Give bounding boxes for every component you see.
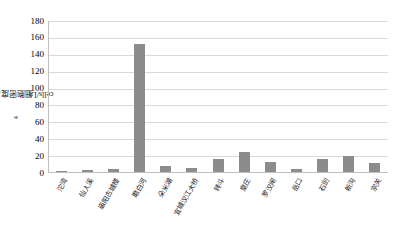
x-axis-tick-slot: 宗关	[362, 174, 388, 236]
y-axis-tick-label: 80	[18, 101, 44, 110]
bar[interactable]	[369, 163, 380, 172]
bar-slot	[310, 21, 336, 172]
x-axis-tick-label: 岳口	[289, 176, 305, 193]
bar-slot	[362, 21, 388, 172]
bar-slot	[205, 21, 231, 172]
x-axis-tick-slot: 沱湾	[48, 174, 74, 236]
x-axis-tick-label: 仙人溪	[77, 176, 96, 199]
bar-slot	[74, 21, 100, 172]
y-axis-tick-label: 140	[18, 50, 44, 59]
x-axis-tick-slot: 皇庄	[231, 174, 257, 236]
bar-slot	[231, 21, 257, 172]
bar[interactable]	[186, 168, 197, 172]
bar-series	[48, 21, 388, 172]
y-axis-tick-label: 0	[18, 169, 44, 178]
y-axis-tick-label: 160	[18, 33, 44, 42]
bar[interactable]	[213, 159, 224, 173]
y-axis-tick-label: 180	[18, 17, 44, 26]
y-axis-tick-label: 40	[18, 135, 44, 144]
x-axis-line	[48, 172, 388, 173]
x-axis-tick-slot: 石剅	[310, 174, 336, 236]
x-axis-tick-label: 磨白河	[129, 176, 148, 199]
bar[interactable]	[317, 159, 328, 173]
x-axis-tick-label: 石剅	[316, 176, 332, 193]
bar-slot	[126, 21, 152, 172]
y-axis-tick-label: 100	[18, 84, 44, 93]
bar[interactable]	[56, 171, 67, 172]
x-axis-tick-label: 庙阳古城楼	[96, 176, 122, 211]
x-axis-tick-label: 转斗	[211, 176, 227, 193]
x-axis-tick-slot: 转斗	[205, 174, 231, 236]
bar-slot	[48, 21, 74, 172]
bar-slot	[179, 21, 205, 172]
bar[interactable]	[82, 170, 93, 172]
x-axis-tick-slot: 庙阳古城楼	[100, 174, 126, 236]
bar-slot	[257, 21, 283, 172]
bar-chart: 细胞密度/(×104cells/L) 180160140120100806040…	[0, 0, 400, 238]
x-axis-tick-label: 罗汉闸	[260, 176, 279, 199]
bar-slot	[153, 21, 179, 172]
x-axis-tick-slot: 罗汉闸	[257, 174, 283, 236]
bar-slot	[100, 21, 126, 172]
bar[interactable]	[291, 169, 302, 172]
bar[interactable]	[239, 152, 250, 172]
x-axis-tick-labels: 沱湾仙人溪庙阳古城楼磨白河朵米湖宜城汉江大桥转斗皇庄罗汉闸岳口石剅新沟宗关	[48, 174, 388, 236]
bar[interactable]	[343, 156, 354, 172]
x-axis-tick-label: 宗关	[368, 176, 384, 193]
x-axis-tick-slot: 磨白河	[126, 174, 152, 236]
bar[interactable]	[134, 44, 145, 172]
y-axis-tick-label: 60	[18, 118, 44, 127]
x-axis-tick-slot: 岳口	[283, 174, 309, 236]
x-axis-tick-slot: 新沟	[336, 174, 362, 236]
x-axis-tick-slot: 宜城汉江大桥	[179, 174, 205, 236]
bar[interactable]	[108, 169, 119, 172]
x-axis-tick-label: 皇庄	[237, 176, 253, 193]
x-axis-tick-label: 新沟	[342, 176, 358, 193]
bar-slot	[336, 21, 362, 172]
bar[interactable]	[265, 162, 276, 172]
y-axis-tick-label: 120	[18, 67, 44, 76]
x-axis-tick-label: 朵米湖	[155, 176, 174, 199]
y-axis-tick-label: 20	[18, 152, 44, 161]
plot-area	[48, 21, 388, 173]
bar[interactable]	[160, 166, 171, 172]
bar-slot	[283, 21, 309, 172]
x-axis-tick-label: 沱湾	[54, 176, 70, 193]
